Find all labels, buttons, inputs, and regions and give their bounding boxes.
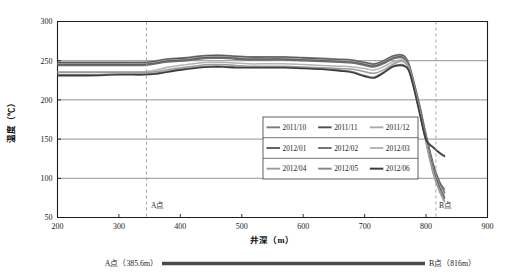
- legend-label: 2011/10: [283, 123, 307, 132]
- x-axis-ticks: 200300400500600700800900: [52, 214, 494, 231]
- depth-interval-caption: A点（385.6m） B点（816m）: [105, 259, 476, 268]
- x-tick-label: 300: [113, 222, 125, 231]
- legend-label: 2011/12: [386, 123, 410, 132]
- y-tick-label: 150: [41, 135, 53, 144]
- legend-label: 2012/04: [283, 164, 307, 173]
- figure-container: 50100150200250300 2003004005006007008009…: [0, 0, 509, 277]
- legend[interactable]: 2011/102011/112011/122012/012012/022012/…: [263, 117, 418, 179]
- x-tick-label: 200: [52, 222, 64, 231]
- y-axis-title: 温度（℃）: [6, 98, 16, 143]
- x-tick-label: 600: [297, 222, 309, 231]
- a-point-inline-label: A点: [151, 201, 164, 210]
- temperature-depth-chart: 50100150200250300 2003004005006007008009…: [0, 0, 509, 277]
- legend-label: 2012/02: [334, 144, 358, 153]
- legend-label: 2011/11: [334, 123, 358, 132]
- y-tick-label: 100: [41, 174, 53, 183]
- x-tick-label: 800: [420, 222, 432, 231]
- b-point-inline-label: B点: [439, 201, 452, 210]
- caption-left-label: A点（385.6m）: [105, 259, 158, 268]
- y-tick-label: 300: [41, 17, 53, 26]
- x-tick-label: 900: [482, 222, 494, 231]
- x-tick-label: 500: [236, 222, 248, 231]
- legend-label: 2012/06: [386, 164, 410, 173]
- caption-right-label: B点（816m）: [429, 259, 476, 268]
- legend-label: 2012/03: [386, 144, 410, 153]
- y-tick-label: 250: [41, 57, 53, 66]
- x-tick-label: 400: [174, 222, 186, 231]
- x-tick-label: 700: [359, 222, 371, 231]
- y-tick-label: 200: [41, 96, 53, 105]
- legend-label: 2012/01: [283, 144, 307, 153]
- x-axis-title: 井深（m）: [250, 235, 293, 245]
- legend-label: 2012/05: [334, 164, 358, 173]
